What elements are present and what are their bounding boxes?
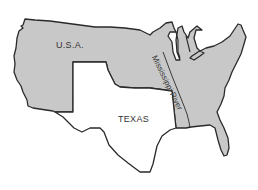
- usa-label: U.S.A.: [56, 40, 84, 50]
- map-canvas: [0, 0, 258, 190]
- texas-label: TEXAS: [118, 114, 149, 124]
